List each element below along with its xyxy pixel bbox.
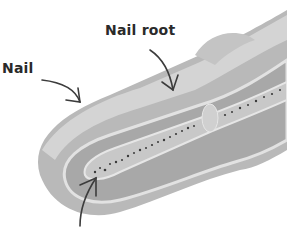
nail-label: Nail	[2, 60, 34, 76]
nail-arrow-icon	[42, 80, 80, 102]
nail-root-label: Nail root	[105, 22, 175, 38]
joint	[202, 104, 218, 132]
